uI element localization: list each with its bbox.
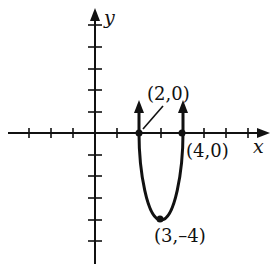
x-axis-label: x [253, 135, 264, 157]
parabola-graph: y x (2,0) (4,0) (3,–4) [0, 0, 271, 269]
y-axis-arrow-icon [90, 8, 100, 21]
left-intercept-label: (2,0) [147, 83, 190, 104]
vertex-label: (3,–4) [154, 225, 206, 246]
y-axis-label: y [103, 6, 115, 28]
right-intercept-label: (4,0) [186, 140, 229, 161]
vertex-point [157, 216, 164, 223]
right-intercept-point [179, 130, 186, 137]
left-intercept-point [136, 130, 143, 137]
curve-left-arrow-icon [134, 100, 144, 113]
left-intercept-leader-line [143, 106, 163, 129]
